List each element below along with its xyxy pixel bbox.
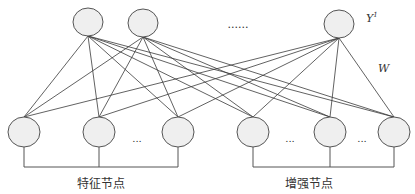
edge [143, 37, 178, 117]
edge [178, 38, 339, 117]
top-ellipsis: ...... [228, 18, 249, 31]
input-node [314, 117, 346, 147]
input-node [8, 117, 40, 147]
edge [88, 36, 330, 117]
edge [88, 36, 99, 117]
output-node [128, 9, 158, 37]
edge [143, 37, 394, 117]
output-node [324, 10, 354, 38]
network-diagram: ...... Y1 W ......... 特征节点增强节点 [0, 0, 415, 194]
edge [339, 38, 394, 117]
output-node [73, 8, 103, 36]
input-ellipsis: ... [132, 133, 142, 144]
edge [88, 36, 253, 117]
group-brackets [24, 147, 394, 167]
output-layer-nodes [73, 8, 354, 38]
input-node [83, 117, 115, 147]
group-label: 特征节点 [77, 176, 125, 191]
input-ellipsis: ... [285, 133, 295, 144]
input-layer-nodes [8, 117, 410, 147]
input-node [378, 117, 410, 147]
output-label-sup: 1 [373, 11, 377, 19]
weights-label: W [378, 62, 391, 75]
edge [253, 38, 339, 117]
group-labels: 特征节点增强节点 [77, 176, 333, 191]
edge [330, 38, 339, 117]
input-node [162, 117, 194, 147]
output-label: Y1 [366, 11, 378, 25]
edge [24, 38, 339, 117]
connection-edges [24, 36, 394, 117]
group-label: 增强节点 [285, 177, 333, 191]
edge [24, 37, 143, 117]
edge [24, 36, 88, 117]
edge [88, 36, 394, 117]
input-ellipsis: ... [357, 133, 367, 144]
input-node [237, 117, 269, 147]
